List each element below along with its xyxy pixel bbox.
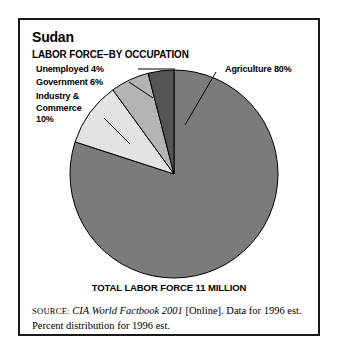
pie-slice-group	[70, 70, 278, 278]
figure-frame: Sudan LABOR FORCE–BY OCCUPATION Unemploy…	[18, 18, 320, 336]
slice-label-industry-line1: Industry &	[36, 90, 79, 101]
slice-label-unemployed: Unemployed 4%	[36, 63, 104, 75]
source-note: SOURCE: CIA World Factbook 2001 [Online]…	[32, 304, 308, 332]
source-line2: Percent distribution for 1996 est.	[32, 320, 170, 331]
slice-label-agriculture: Agriculture 80%	[225, 63, 292, 75]
source-rest: [Online]. Data for 1996 est.	[183, 305, 302, 316]
total-labor-force-caption: TOTAL LABOR FORCE 11 MILLION	[20, 282, 318, 293]
slice-label-industry-line2: Commerce	[36, 102, 82, 113]
source-prefix: SOURCE:	[32, 306, 70, 316]
slice-label-industry-line3: 10%	[36, 113, 54, 124]
slice-label-government: Government 6%	[36, 76, 103, 88]
source-title: CIA World Factbook 2001	[72, 305, 183, 316]
slice-label-industry: Industry & Commerce 10%	[36, 90, 82, 125]
